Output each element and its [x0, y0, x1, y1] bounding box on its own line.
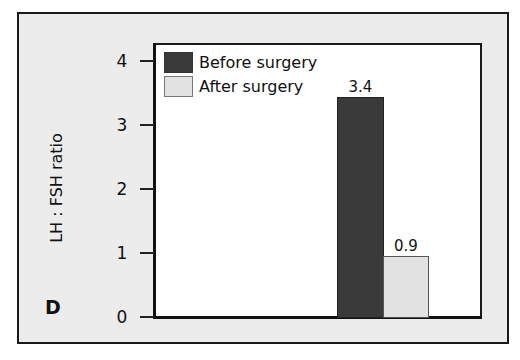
y-tick-2: [140, 188, 154, 190]
bar-value-after: 0.9: [383, 237, 429, 255]
y-tick-0: [140, 316, 154, 318]
y-tick-label-1: 1: [110, 243, 134, 263]
bar-value-before: 3.4: [337, 78, 384, 96]
y-tick-label-0: 0: [110, 307, 134, 327]
legend-label-after: After surgery: [199, 77, 303, 96]
y-tick-label-2: 2: [110, 179, 134, 199]
legend: Before surgery After surgery: [164, 50, 317, 98]
y-tick-label-3: 3: [110, 115, 134, 135]
legend-label-before: Before surgery: [199, 53, 317, 72]
bar-before-surgery: [337, 97, 384, 318]
y-tick-1: [140, 252, 154, 254]
y-axis-label: LH : FSH ratio: [47, 133, 66, 243]
panel-label: D: [45, 296, 61, 318]
bar-after-surgery: [383, 256, 429, 318]
y-tick-3: [140, 124, 154, 126]
y-tick-4: [140, 60, 154, 62]
y-tick-label-4: 4: [110, 51, 134, 71]
legend-item-after: After surgery: [164, 74, 317, 98]
legend-swatch-after: [164, 76, 193, 97]
legend-swatch-before: [164, 52, 193, 73]
y-axis-line: [153, 43, 156, 319]
legend-item-before: Before surgery: [164, 50, 317, 74]
x-axis-line: [153, 316, 482, 319]
